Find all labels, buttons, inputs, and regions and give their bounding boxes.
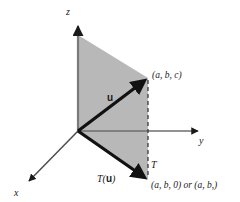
x-axis-label: x — [14, 188, 18, 198]
y-axis-label: y — [199, 136, 203, 146]
projection-map-label: T — [151, 160, 157, 170]
x-axis — [29, 131, 78, 181]
vector-projection-figure: z y x u T(u) T (a, b, c) (a, b, 0) or (a… — [0, 0, 240, 202]
point-image-label: (a, b, 0) or (a, b,) — [151, 181, 217, 191]
point-head-label: (a, b, c) — [152, 71, 182, 81]
vector-tu-label: T(u) — [97, 174, 115, 184]
vector-u-label: u — [107, 93, 113, 103]
shaded-plane — [78, 35, 148, 180]
z-axis-label: z — [66, 7, 70, 17]
vector-tu-label-close: ) — [112, 173, 115, 184]
figure-canvas — [0, 0, 240, 202]
